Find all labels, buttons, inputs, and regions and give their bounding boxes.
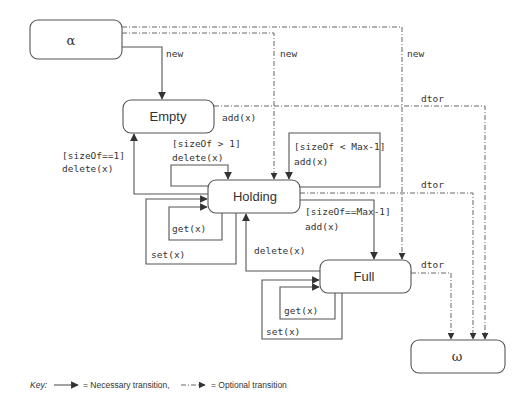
label-holding-dtor: dtor (421, 179, 444, 190)
label-full-set: set(x) (266, 326, 300, 337)
state-omega: ω (411, 340, 505, 373)
legend: Key: = Necessary transition, = Optional … (30, 380, 287, 390)
legend-optional-text: = Optional transition (211, 380, 287, 390)
transition-alpha-to-empty (122, 47, 162, 99)
state-omega-label: ω (452, 349, 463, 364)
state-alpha: α (30, 20, 122, 59)
state-full: Full (320, 260, 411, 293)
state-holding-label: Holding (233, 189, 277, 204)
label-holding-set: set(x) (151, 249, 185, 260)
label-holding-to-empty-guard: [sizeOf==1] (62, 150, 125, 161)
transition-full-to-omega (411, 273, 451, 339)
label-alpha-to-holding: new (280, 48, 297, 59)
label-empty-dtor: dtor (421, 93, 444, 104)
label-holding-add-action: add(x) (294, 156, 328, 167)
label-empty-add: add(x) (222, 112, 256, 123)
label-alpha-to-empty: new (166, 48, 183, 59)
state-empty: Empty (123, 100, 214, 133)
state-diagram: α Empty Holding Full ω new new new add(x… (0, 0, 529, 401)
state-full-label: Full (354, 269, 375, 284)
label-holding-delete-action: delete(x) (172, 152, 223, 163)
state-alpha-label: α (67, 33, 76, 48)
legend-title: Key: (30, 380, 48, 390)
label-holding-get: get(x) (172, 223, 206, 234)
label-alpha-to-full: new (407, 48, 424, 59)
state-empty-label: Empty (150, 109, 187, 124)
label-full-to-holding: delete(x) (254, 245, 305, 256)
label-full-get: get(x) (284, 305, 318, 316)
label-holding-delete-guard: [sizeOf > 1] (172, 138, 241, 149)
label-holding-add-guard: [sizeOf < Max-1] (294, 141, 386, 152)
label-holding-to-empty-action: delete(x) (62, 163, 113, 174)
legend-necessary-text: = Necessary transition, (83, 380, 170, 390)
label-full-dtor: dtor (421, 259, 444, 270)
state-holding: Holding (208, 180, 300, 213)
label-holding-to-full-guard: [sizeOf==Max-1] (305, 206, 391, 217)
label-holding-to-full-action: add(x) (305, 221, 339, 232)
